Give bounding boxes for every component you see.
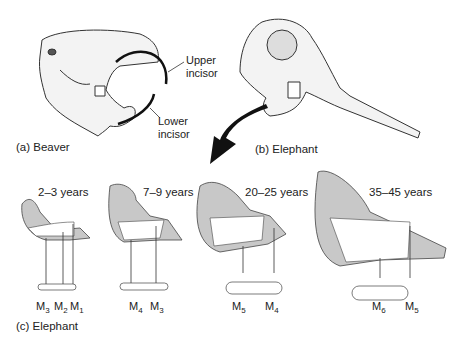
molar-label: M2 <box>54 300 68 315</box>
molar-label: M3 <box>36 300 50 315</box>
jaw-7-9-years <box>109 184 182 290</box>
molar-label: M4 <box>265 300 279 315</box>
lower-incisor-label: Lowerincisor <box>158 115 190 141</box>
jaw-2-3-years <box>22 199 90 290</box>
age-label: 20–25 years <box>245 186 308 198</box>
caption-b: (b) Elephant <box>255 143 318 156</box>
age-label: 7–9 years <box>143 186 194 198</box>
caption-a: (a) Beaver <box>16 141 70 154</box>
upper-incisor-label: Upperincisor <box>186 54 218 80</box>
elephant-skull-drawing <box>240 19 420 138</box>
age-label: 35–45 years <box>369 186 432 198</box>
molar-label: M5 <box>405 300 419 315</box>
caption-c: (c) Elephant <box>16 320 78 333</box>
beaver-skull-drawing <box>39 30 158 136</box>
molar-label: M4 <box>129 300 143 315</box>
molar-label: M3 <box>150 300 164 315</box>
age-label: 2–3 years <box>38 186 89 198</box>
diagram-graphics <box>0 0 464 342</box>
molar-label: M5 <box>232 300 246 315</box>
jaw-20-25-years <box>197 182 286 294</box>
upper-incisor-leader <box>168 62 184 72</box>
molar-label: M6 <box>372 300 386 315</box>
molar-label: M1 <box>70 300 84 315</box>
